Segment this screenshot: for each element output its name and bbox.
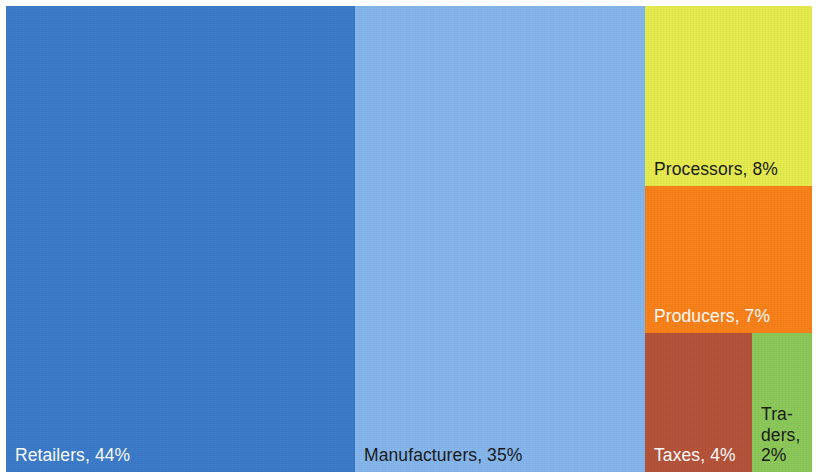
treemap-tile-taxes[interactable]: Taxes, 4% xyxy=(645,333,752,472)
treemap-tile-label-traders: Tra- ders, 2% xyxy=(761,404,800,466)
treemap-tile-manufacturers[interactable]: Manufacturers, 35% xyxy=(355,6,645,472)
treemap-tile-label-retailers: Retailers, 44% xyxy=(15,445,130,466)
treemap-chart: Retailers, 44% Manufacturers, 35% Proces… xyxy=(0,0,818,476)
treemap-tile-label-manufacturers: Manufacturers, 35% xyxy=(364,445,522,466)
treemap-tile-producers[interactable]: Producers, 7% xyxy=(645,186,812,333)
treemap-tile-label-processors: Processors, 8% xyxy=(654,159,778,180)
treemap-tile-label-taxes: Taxes, 4% xyxy=(654,445,736,466)
texture-overlay-manufacturers xyxy=(355,6,645,472)
texture-overlay-retailers xyxy=(6,6,355,472)
treemap-tile-processors[interactable]: Processors, 8% xyxy=(645,6,812,186)
treemap-tile-traders[interactable]: Tra- ders, 2% xyxy=(752,333,812,472)
treemap-plot-area: Retailers, 44% Manufacturers, 35% Proces… xyxy=(6,6,812,472)
treemap-tile-label-producers: Producers, 7% xyxy=(654,306,770,327)
treemap-tile-retailers[interactable]: Retailers, 44% xyxy=(6,6,355,472)
